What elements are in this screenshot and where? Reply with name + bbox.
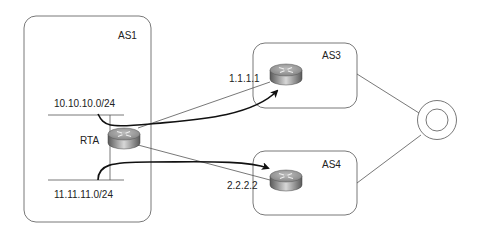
link-rta-as3	[138, 82, 270, 128]
as3-router-ip: 1.1.1.1	[229, 73, 260, 84]
router-as3-icon	[270, 64, 302, 85]
link-as4-cloud	[357, 135, 421, 183]
as4-label: AS4	[322, 159, 341, 170]
router-as4-icon	[270, 170, 302, 191]
flow-arrow-10-to-as3	[98, 91, 277, 126]
network-10-label: 10.10.10.0/24	[54, 98, 116, 109]
router-rta-icon	[108, 128, 140, 149]
link-as3-cloud	[357, 74, 419, 113]
internet-circle-outer	[418, 101, 457, 140]
flow-arrow-11-to-as4	[98, 162, 268, 180]
as4-router-ip: 2.2.2.2	[227, 180, 258, 191]
rta-label: RTA	[80, 135, 99, 146]
as3-label: AS3	[322, 50, 341, 61]
network-diagram: AS1 AS3 AS4 10.10.10.0/24 11.11.11.0/24 …	[0, 0, 480, 237]
as4-box	[253, 151, 357, 215]
internet-circle-inner	[426, 109, 448, 131]
network-11-label: 11.11.11.0/24	[54, 189, 113, 200]
as1-label: AS1	[118, 30, 137, 41]
